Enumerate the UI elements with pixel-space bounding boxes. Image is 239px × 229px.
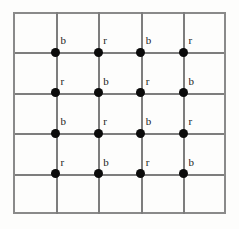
node-label: r xyxy=(188,35,192,46)
lattice-node xyxy=(179,129,188,138)
node-label: b xyxy=(61,116,67,127)
grid-border-horizontal xyxy=(13,12,226,14)
lattice-node xyxy=(94,88,103,97)
node-label: r xyxy=(146,76,150,87)
node-label: r xyxy=(103,35,107,46)
lattice-node xyxy=(136,169,145,178)
node-label: b xyxy=(188,157,194,168)
node-label: r xyxy=(61,157,65,168)
grid-border-vertical xyxy=(224,12,226,214)
lattice-node xyxy=(94,48,103,57)
lattice-node xyxy=(179,88,188,97)
lattice-node xyxy=(51,169,60,178)
lattice-node xyxy=(136,48,145,57)
lattice-node xyxy=(51,88,60,97)
grid-border-vertical xyxy=(13,12,15,214)
node-label: b xyxy=(103,157,109,168)
grid-border-horizontal xyxy=(13,212,226,214)
lattice-node xyxy=(179,169,188,178)
lattice-node xyxy=(179,48,188,57)
grid-line-horizontal xyxy=(13,174,226,176)
grid-line-vertical xyxy=(56,12,58,214)
lattice-diagram: brbrrbrbbrbrrbrb xyxy=(0,0,239,229)
lattice-node xyxy=(51,48,60,57)
node-label: r xyxy=(61,76,65,87)
node-label: b xyxy=(103,76,109,87)
grid-line-vertical xyxy=(183,12,185,214)
grid-line-vertical xyxy=(141,12,143,214)
lattice-node xyxy=(94,129,103,138)
lattice-node xyxy=(136,88,145,97)
grid-line-vertical xyxy=(98,12,100,214)
lattice-node xyxy=(94,169,103,178)
grid-line-horizontal xyxy=(13,52,226,54)
node-label: b xyxy=(146,116,152,127)
lattice-node xyxy=(51,129,60,138)
lattice-node xyxy=(136,129,145,138)
node-label: r xyxy=(103,116,107,127)
grid-area: brbrrbrbbrbrrbrb xyxy=(13,12,226,214)
grid-line-horizontal xyxy=(13,133,226,135)
node-label: b xyxy=(146,35,152,46)
node-label: b xyxy=(61,35,67,46)
node-label: b xyxy=(188,76,194,87)
node-label: r xyxy=(146,157,150,168)
node-label: r xyxy=(188,116,192,127)
grid-line-horizontal xyxy=(13,93,226,95)
